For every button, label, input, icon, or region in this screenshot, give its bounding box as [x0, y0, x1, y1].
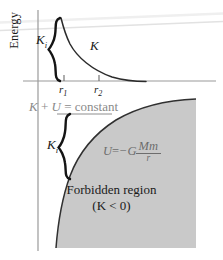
conservation-u: U [52, 99, 61, 114]
ueq-denominator: r [136, 153, 161, 164]
scan-artifact-line-upper [0, 14, 223, 23]
conservation-plus: + [38, 99, 52, 114]
ki-lower-sub: i [56, 145, 58, 155]
diagram-canvas [0, 0, 223, 260]
forbidden-region-fill [56, 99, 196, 248]
r2-sub: 2 [98, 89, 102, 98]
ueq-minus-g: −G [119, 145, 136, 158]
ki-upper-sub: i [45, 40, 47, 50]
forbidden-region-label: Forbidden region [0, 183, 223, 196]
scan-artifact-line-lower [0, 22, 223, 31]
ki-upper-label: Ki [36, 33, 47, 49]
ueq-fraction: Mmr [138, 140, 159, 163]
brace-ki-lower [59, 114, 71, 179]
energy-axis-label: Energy [8, 4, 21, 56]
ki-lower-label: Ki [47, 138, 58, 154]
conservation-equals: = constant [61, 99, 118, 114]
ki-upper-letter: K [36, 32, 45, 47]
r1-tick-label: r1 [59, 84, 67, 98]
potential-energy-equation: U = −GMmr [103, 140, 159, 163]
conservation-equation-label: K + U = constant [29, 100, 118, 113]
conservation-k: K [29, 99, 38, 114]
ueq-equals: = [112, 145, 119, 158]
k-curve-label: K [90, 39, 99, 52]
ueq-u: U [103, 145, 112, 158]
ki-lower-letter: K [47, 137, 56, 152]
r2-tick-label: r2 [94, 84, 102, 98]
ueq-numerator: Mm [138, 140, 159, 153]
forbidden-region-condition: (K < 0) [0, 199, 223, 212]
energy-diagram-figure: Energy Ki K r1 r2 K + U = constant Ki U … [0, 0, 223, 260]
r1-sub: 1 [63, 89, 67, 98]
